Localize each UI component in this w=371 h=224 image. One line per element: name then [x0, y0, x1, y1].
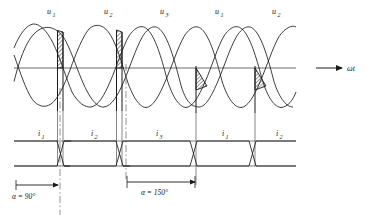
alpha-150-dimension	[127, 176, 195, 188]
omega-t-label: ωt	[347, 64, 356, 73]
voltage-label-u2-2: u	[272, 7, 276, 16]
current-label-i2-1: i	[91, 129, 93, 138]
hatched-region-3	[196, 68, 207, 90]
current-label-i3-sub: 3	[159, 134, 163, 140]
figure-canvas: ωt α = 90° α = 150°	[0, 0, 371, 224]
voltage-label-u1-1-sub: 1	[53, 12, 56, 18]
current-pulse-train	[14, 141, 296, 166]
voltage-label-u1-1: u	[47, 7, 51, 16]
voltage-label-u1-2-sub: 1	[221, 12, 224, 18]
voltage-label-u1-2: u	[215, 7, 219, 16]
voltage-label-u3: u	[160, 7, 164, 16]
current-label-i1-1: i	[38, 129, 40, 138]
hatched-region-1	[58, 31, 64, 69]
voltage-label-u2-1-sub: 2	[110, 12, 113, 18]
current-label-i2-2: i	[276, 129, 278, 138]
sine-wave-u3	[14, 25, 296, 107]
tie-lines	[58, 111, 256, 185]
voltage-label-u2-2-sub: 2	[278, 12, 281, 18]
voltage-label-u2-1: u	[104, 7, 108, 16]
current-label-i1-2-sub: 1	[226, 134, 229, 140]
current-label-i2-2-sub: 2	[280, 134, 283, 140]
alpha-150-label: α = 150°	[141, 188, 168, 197]
alpha-90-dimension	[16, 180, 58, 190]
voltage-label-u3-sub: 3	[165, 12, 169, 18]
current-label-group: i 1 i 2 i 3 i 1 i 2	[38, 129, 283, 140]
voltage-label-group: u 1 u 2 u 3 u 1 u 2	[47, 7, 281, 18]
hatched-region-2	[117, 30, 123, 68]
timing-diagram-svg: ωt α = 90° α = 150°	[0, 0, 371, 224]
current-baselines	[14, 141, 296, 166]
current-label-i2-1-sub: 2	[95, 134, 98, 140]
commutation-lines	[58, 30, 256, 113]
current-label-i1-1-sub: 1	[42, 134, 45, 140]
current-label-i3: i	[156, 129, 158, 138]
current-label-i1-2: i	[222, 129, 224, 138]
alpha-90-label: α = 90°	[12, 192, 35, 201]
